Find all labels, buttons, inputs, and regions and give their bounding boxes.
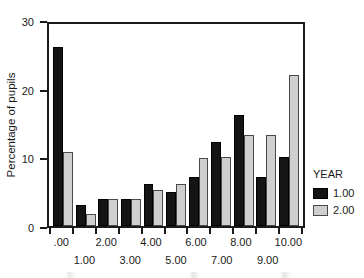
- bar-group: [52, 24, 75, 226]
- x-axis-tick: [210, 228, 233, 234]
- x-axis-tick-label: [252, 235, 274, 249]
- bar-group: [75, 24, 98, 226]
- x-axis-tick-label: [207, 235, 229, 249]
- x-axis-tick-label: [142, 253, 165, 267]
- x-axis-labels-top: .002.004.006.008.0010.00: [47, 235, 305, 249]
- bar[interactable]: [189, 177, 199, 226]
- legend-item[interactable]: 2.00: [313, 205, 363, 216]
- bar[interactable]: [176, 184, 186, 226]
- x-axis-tick: [233, 228, 256, 234]
- legend-swatch-icon: [313, 188, 328, 199]
- bar-group: [165, 24, 188, 226]
- legend-item-label: 1.00: [333, 188, 354, 199]
- y-axis-tick: [40, 158, 47, 160]
- x-axis-tick-label: [50, 253, 73, 267]
- legend-title: YEAR: [313, 168, 363, 181]
- bar[interactable]: [63, 152, 73, 226]
- x-axis-tick-label: [233, 253, 256, 267]
- bar[interactable]: [131, 199, 141, 226]
- bar[interactable]: [98, 199, 108, 226]
- bar[interactable]: [256, 177, 266, 226]
- bar-group: [120, 24, 143, 226]
- bar[interactable]: [289, 75, 299, 226]
- x-axis-tick-label: 4.00: [140, 235, 162, 249]
- x-axis-tick-label: 7.00: [210, 253, 233, 267]
- y-axis-tick: [40, 227, 47, 229]
- y-axis-tick-label: 30: [0, 17, 34, 28]
- bar[interactable]: [108, 199, 118, 226]
- bar[interactable]: [221, 157, 231, 226]
- bar-group: [255, 24, 278, 226]
- x-axis-tick-label: [96, 253, 119, 267]
- x-axis-tick-label: 6.00: [185, 235, 207, 249]
- bar-group: [277, 24, 300, 226]
- bar[interactable]: [199, 158, 209, 226]
- x-axis-tick-label: 5.00: [165, 253, 188, 267]
- x-axis-labels-bottom: 1.003.005.007.009.00: [47, 253, 305, 267]
- legend-item-label: 2.00: [333, 205, 354, 216]
- x-axis-tick: [187, 228, 210, 234]
- y-axis-tick-label: 0: [0, 223, 34, 234]
- x-axis-tick-label: [279, 253, 302, 267]
- bar[interactable]: [211, 142, 221, 226]
- bar[interactable]: [279, 157, 289, 226]
- bar-series-container: [49, 24, 303, 226]
- legend: YEAR 1.00 2.00: [313, 168, 363, 222]
- y-axis-tick-label: 10: [0, 154, 34, 165]
- bar[interactable]: [234, 115, 244, 226]
- x-axis-tick: [73, 228, 96, 234]
- y-axis-tick: [40, 21, 47, 23]
- x-axis-tick-label: 10.00: [275, 235, 303, 249]
- x-axis-tick: [96, 228, 119, 234]
- bar[interactable]: [76, 205, 86, 226]
- x-axis-tick-label: 8.00: [230, 235, 252, 249]
- scan-edge-artifact: [0, 272, 364, 278]
- x-axis-tick-label: 9.00: [256, 253, 279, 267]
- x-axis-tick-label: [162, 235, 184, 249]
- x-axis-tick: [256, 228, 279, 234]
- bar-group: [97, 24, 120, 226]
- x-axis-tick: [119, 228, 142, 234]
- x-axis-tick: [279, 228, 302, 234]
- bar-group: [210, 24, 233, 226]
- x-axis-tick-label: [72, 235, 94, 249]
- x-axis-tick: [142, 228, 165, 234]
- x-axis-tick-label: [117, 235, 139, 249]
- bar[interactable]: [121, 199, 131, 226]
- bar[interactable]: [144, 184, 154, 226]
- x-axis-tick: [165, 228, 188, 234]
- x-axis-ticks: [47, 228, 305, 234]
- y-axis-tick-label: 20: [0, 85, 34, 96]
- bar[interactable]: [53, 47, 63, 226]
- legend-item[interactable]: 1.00: [313, 188, 363, 199]
- legend-swatch-icon: [313, 205, 328, 216]
- x-axis-tick-label: 3.00: [119, 253, 142, 267]
- chart-figure: Percentage of pupils 0102030 .002.004.00…: [0, 0, 364, 278]
- y-axis-tick: [40, 90, 47, 92]
- x-axis-tick-label: .00: [50, 235, 72, 249]
- bar[interactable]: [166, 192, 176, 226]
- bar-group: [142, 24, 165, 226]
- bar-group: [187, 24, 210, 226]
- plot-area: [47, 22, 305, 228]
- x-axis-tick-label: 2.00: [95, 235, 117, 249]
- x-axis-tick: [50, 228, 73, 234]
- bar[interactable]: [86, 214, 96, 226]
- y-axis-title: Percentage of pupils: [4, 22, 18, 228]
- bar[interactable]: [153, 190, 163, 226]
- x-axis-tick-label: 1.00: [73, 253, 96, 267]
- bar[interactable]: [244, 135, 254, 226]
- bar[interactable]: [266, 135, 276, 226]
- bar-group: [232, 24, 255, 226]
- x-axis-tick-label: [187, 253, 210, 267]
